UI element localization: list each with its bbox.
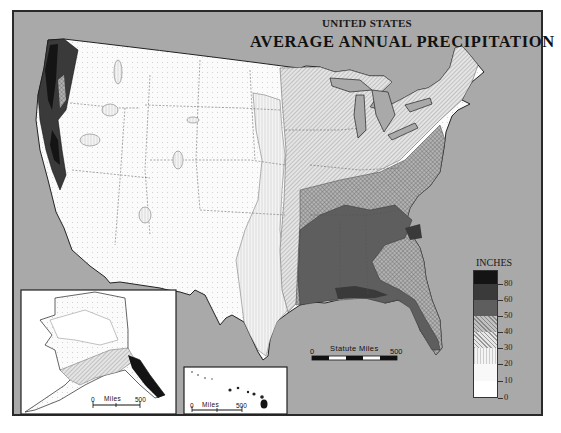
map-title: AVERAGE ANNUAL PRECIPITATION xyxy=(250,32,555,52)
alaska-scale-end: 500 xyxy=(135,396,146,403)
legend-swatch-50 xyxy=(473,300,498,316)
legend-label-30: 30 xyxy=(504,342,513,352)
legend-swatch-20 xyxy=(473,348,498,364)
legend-swatch-10 xyxy=(473,364,498,381)
legend-tick xyxy=(498,381,503,382)
legend-tick xyxy=(498,300,503,301)
legend-tick xyxy=(498,316,503,317)
scale-bar xyxy=(312,356,397,360)
legend-swatch-60 xyxy=(473,284,498,300)
legend-label-50: 50 xyxy=(504,310,513,320)
legend-label-20: 20 xyxy=(504,358,513,368)
alaska-scale-start: 0 xyxy=(91,396,95,403)
alaska-inset xyxy=(21,290,176,414)
legend-tick xyxy=(498,284,503,285)
scale-bar-start: 0 xyxy=(310,347,314,356)
map-subtitle: UNITED STATES xyxy=(322,17,412,29)
scale-bar-title: Statute Miles xyxy=(330,344,379,353)
legend-label-80: 80 xyxy=(504,278,513,288)
hawaii-scale-end: 500 xyxy=(236,402,247,409)
legend-label-0: 0 xyxy=(504,392,508,402)
legend-tick xyxy=(498,332,503,333)
legend-swatch-30 xyxy=(473,332,498,348)
legend-label-60: 60 xyxy=(504,294,513,304)
legend-swatch-0 xyxy=(473,381,498,398)
legend-tick xyxy=(498,348,503,349)
hawaii-scale-title: Miles xyxy=(202,401,219,408)
alaska-scale-title: Miles xyxy=(104,395,121,402)
legend-label-40: 40 xyxy=(504,326,513,336)
legend-swatch-80 xyxy=(473,270,498,284)
scale-bar-end: 500 xyxy=(390,347,403,356)
hawaii-scale-start: 0 xyxy=(190,402,194,409)
legend-tick xyxy=(498,364,503,365)
legend-tick xyxy=(498,398,503,399)
legend-title: INCHES xyxy=(476,257,512,268)
legend-label-10: 10 xyxy=(504,375,513,385)
legend-swatch-40 xyxy=(473,316,498,332)
